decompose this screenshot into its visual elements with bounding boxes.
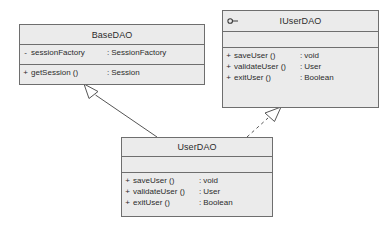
operation-row: + saveUser () : void [122, 175, 272, 186]
empty-attributes-placeholder [223, 32, 378, 47]
class-name-label: BaseDAO [92, 30, 133, 40]
operation-name: exitUser () [133, 198, 199, 207]
realization-line [247, 118, 268, 137]
operation-row: + validateUser () : User [223, 61, 378, 72]
operation-row: + validateUser () : User [122, 186, 272, 197]
realization-userdao-iuserdao [247, 107, 281, 137]
uml-class-userdao[interactable]: UserDAO + saveUser () : void + validateU… [121, 137, 273, 217]
class-operations-compartment: + getSession () : Session [20, 64, 204, 84]
generalization-line [96, 95, 158, 137]
operation-name: getSession () [31, 68, 107, 77]
operation-return-type: void [203, 176, 218, 185]
operation-return-type: Boolean [203, 198, 232, 207]
operation-row: + exitUser () : Boolean [223, 72, 378, 83]
operation-return-type: Boolean [304, 73, 333, 82]
visibility-marker: + [20, 68, 31, 77]
visibility-marker: + [122, 176, 133, 185]
class-attributes-compartment [122, 156, 272, 172]
interface-lollipop-icon [227, 18, 239, 25]
operation-row: + getSession () : Session [20, 67, 204, 78]
class-name-label: UserDAO [177, 142, 216, 152]
class-name-label: IUserDAO [280, 16, 322, 26]
class-title-compartment: BaseDAO [20, 25, 204, 44]
visibility-marker: + [223, 51, 234, 60]
operation-name: saveUser () [133, 176, 199, 185]
hollow-triangle-arrowhead-icon [265, 107, 281, 122]
operation-return-type: User [304, 62, 321, 71]
class-title-compartment: IUserDAO [223, 11, 378, 31]
hollow-triangle-arrowhead-icon [84, 84, 98, 99]
uml-class-basedao[interactable]: BaseDAO - sessionFactory : SessionFactor… [19, 24, 205, 85]
class-title-compartment: UserDAO [122, 138, 272, 156]
operation-row: + saveUser () : void [223, 50, 378, 61]
operation-name: validateUser () [133, 187, 199, 196]
class-attributes-compartment: - sessionFactory : SessionFactory [20, 44, 204, 64]
operation-name: validateUser () [234, 62, 300, 71]
operation-return-type: User [203, 187, 220, 196]
operation-row: + exitUser () : Boolean [122, 197, 272, 208]
class-operations-compartment: + saveUser () : void + validateUser () :… [122, 172, 272, 216]
generalization-userdao-basedao [84, 84, 157, 137]
attribute-name: sessionFactory [31, 48, 107, 57]
class-attributes-compartment [223, 31, 378, 47]
empty-attributes-placeholder [122, 157, 272, 172]
attribute-type: SessionFactory [111, 48, 166, 57]
visibility-marker: + [223, 62, 234, 71]
visibility-marker: + [223, 73, 234, 82]
visibility-marker: + [122, 187, 133, 196]
attribute-row: - sessionFactory : SessionFactory [20, 47, 204, 58]
uml-class-iuserdao[interactable]: IUserDAO + saveUser () : void + validate… [222, 10, 379, 108]
visibility-marker: + [122, 198, 133, 207]
operation-name: exitUser () [234, 73, 300, 82]
visibility-marker: - [20, 48, 31, 57]
operation-return-type: Session [111, 68, 139, 77]
operation-name: saveUser () [234, 51, 300, 60]
class-operations-compartment: + saveUser () : void + validateUser () :… [223, 47, 378, 107]
operation-return-type: void [304, 51, 319, 60]
